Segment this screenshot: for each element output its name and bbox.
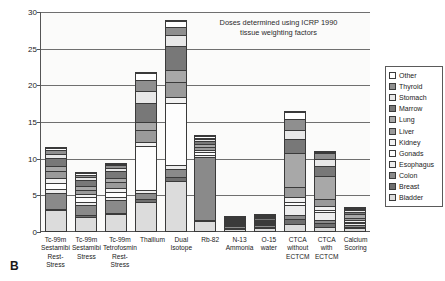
bar-segment xyxy=(136,80,156,91)
bar-slot xyxy=(191,12,221,231)
bar-segment xyxy=(166,21,186,28)
legend-label: Colon xyxy=(399,172,417,179)
plot-area: 051015202530 Doses determined using ICRP… xyxy=(40,12,370,232)
bar-segment xyxy=(166,181,186,231)
x-tick-label-line: Rest-Stress xyxy=(103,253,137,270)
x-axis-labels: Tc-99mSestamibiRest-StressTc-99mSestamib… xyxy=(40,236,370,276)
annotation-line-2: tissue weighting factors xyxy=(191,28,366,38)
bar-segment xyxy=(46,183,66,190)
x-tick-label-line: Stress xyxy=(72,253,101,261)
y-tick-label: 25 xyxy=(28,44,37,53)
legend-item[interactable]: Lung xyxy=(389,114,439,125)
legend-item[interactable]: Kidney xyxy=(389,137,439,148)
bar-segment xyxy=(255,228,275,231)
x-tick-label: CTCAwithoutECTCM xyxy=(283,236,312,276)
bar-segment xyxy=(46,171,66,178)
stacked-bar[interactable] xyxy=(315,152,335,231)
stacked-bar[interactable] xyxy=(106,164,126,231)
bar-slot xyxy=(101,12,131,231)
bar-segment xyxy=(285,205,305,215)
legend-label: Stomach xyxy=(399,94,427,101)
x-tick-label: Rb-82 xyxy=(196,236,225,276)
legend-swatch xyxy=(389,194,396,201)
x-tick-label-line: Rb-82 xyxy=(197,236,224,244)
stacked-bar[interactable] xyxy=(195,136,215,231)
x-tick-label-line: Tc-99m xyxy=(72,236,101,244)
x-tick-label-line: CTCA with xyxy=(313,236,340,253)
x-tick-label-line: Scoring xyxy=(342,244,369,252)
x-tick-label-line: Sestamibi xyxy=(41,244,70,252)
bar-group xyxy=(41,12,370,231)
bar-segment xyxy=(136,91,156,103)
bar-segment xyxy=(106,171,126,178)
bar-segment xyxy=(106,214,126,231)
y-tick-mark xyxy=(37,232,41,233)
bar-segment xyxy=(166,103,186,165)
legend-item[interactable]: Breast xyxy=(389,181,439,192)
bar-segment xyxy=(106,200,126,212)
bar-slot xyxy=(161,12,191,231)
y-tick-label: 15 xyxy=(28,118,37,127)
legend-item[interactable]: Stomach xyxy=(389,92,439,103)
legend-swatch xyxy=(389,72,396,79)
stacked-bar[interactable] xyxy=(136,73,156,231)
x-tick-label-line: Tc-99m xyxy=(103,236,137,244)
stacked-bar[interactable] xyxy=(225,217,245,231)
legend-item[interactable]: Liver xyxy=(389,125,439,136)
x-tick-label-line: without xyxy=(284,244,311,252)
stacked-bar[interactable] xyxy=(76,173,96,231)
bar-segment xyxy=(285,153,305,187)
x-tick-label-line: Tetrofosmin xyxy=(103,244,137,252)
legend-item[interactable]: Colon xyxy=(389,170,439,181)
bar-slot xyxy=(220,12,250,231)
stacked-bar[interactable] xyxy=(285,112,305,231)
legend-item[interactable]: Other xyxy=(389,70,439,81)
bar-slot xyxy=(71,12,101,231)
legend-label: Liver xyxy=(399,128,414,135)
legend-label: Other xyxy=(399,72,417,79)
bar-segment xyxy=(76,217,96,231)
bar-slot xyxy=(280,12,310,231)
bar-segment xyxy=(315,212,335,219)
legend-label: Kidney xyxy=(399,139,420,146)
bar-segment xyxy=(285,130,305,140)
bar-segment xyxy=(285,224,305,231)
x-tick-label: N-13Ammonia xyxy=(225,236,255,276)
bar-segment xyxy=(315,166,335,176)
x-tick-label-line: Tc-99m xyxy=(41,236,70,244)
legend-swatch xyxy=(389,116,396,123)
figure-container: 051015202530 Doses determined using ICRP… xyxy=(0,0,445,281)
legend-item[interactable]: Bladder xyxy=(389,192,439,203)
legend-swatch xyxy=(389,172,396,179)
bar-segment xyxy=(46,158,66,166)
stacked-bar[interactable] xyxy=(255,215,275,231)
bar-segment xyxy=(136,103,156,122)
legend-item[interactable]: Marrow xyxy=(389,103,439,114)
stacked-bar[interactable] xyxy=(46,148,66,231)
legend-swatch xyxy=(389,161,396,168)
legend-swatch xyxy=(389,139,396,146)
x-tick-label: Dual Isotope xyxy=(167,236,196,276)
bar-segment xyxy=(225,229,245,231)
bar-segment xyxy=(166,27,186,35)
y-tick-label: 20 xyxy=(28,81,37,90)
bar-segment xyxy=(195,157,215,220)
legend-label: Bladder xyxy=(399,194,423,201)
legend-item[interactable]: Thyroid xyxy=(389,81,439,92)
legend-item[interactable]: Gonads xyxy=(389,148,439,159)
legend-swatch xyxy=(389,128,396,135)
bar-slot xyxy=(310,12,340,231)
bar-segment xyxy=(285,139,305,153)
bar-segment xyxy=(136,146,156,189)
bar-segment xyxy=(315,227,335,231)
legend-item[interactable]: Esophagus xyxy=(389,159,439,170)
stacked-bar[interactable] xyxy=(166,21,186,231)
legend-swatch xyxy=(389,83,396,90)
x-tick-label-line: Sestamibi xyxy=(72,244,101,252)
bar-segment xyxy=(166,70,186,81)
stacked-bar[interactable] xyxy=(345,208,365,231)
bar-segment xyxy=(76,205,96,216)
x-tick-label-line: ECTCM xyxy=(284,253,311,261)
bar-slot xyxy=(250,12,280,231)
bar-segment xyxy=(285,119,305,130)
